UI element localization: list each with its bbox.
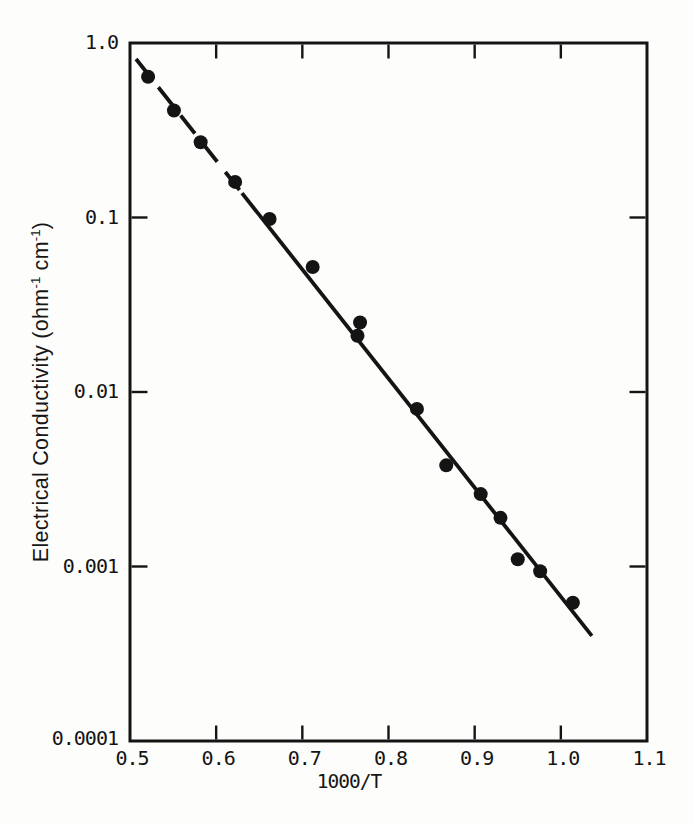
x-tick-label: 0.6 [202,746,235,770]
data-point [353,316,367,330]
data-point [350,329,364,343]
data-point [263,212,277,226]
y-axis-title-sup1: -1 [28,277,43,289]
data-point [167,104,181,118]
x-tick-label: 0.9 [460,746,493,770]
conductivity-vs-inverse-temperature-chart: 1.00.10.010.0010.00010.50.60.70.80.91.01… [0,0,694,825]
data-point [533,564,547,578]
x-tick-label: 1.1 [632,746,665,770]
data-point [194,135,208,149]
x-tick-label: 0.5 [115,746,148,770]
data-point [566,596,580,610]
data-point [474,487,488,501]
x-axis-title: 1000/T [317,770,381,793]
arrhenius-conductivity-figure: 1.00.10.010.0010.00010.50.60.70.80.91.01… [0,0,694,825]
y-tick-label: 0.01 [74,379,118,403]
data-point [511,552,525,566]
y-axis-title-text2: cm [29,241,53,277]
y-tick-label: 1.0 [85,30,118,54]
y-axis-title: Electrical Conductivity (ohm-1 cm-1) [28,222,54,562]
y-axis-title-sup2: -1 [28,229,43,241]
data-point [141,70,155,84]
y-tick-label: 0.001 [63,554,118,578]
y-tick-label: 0.0001 [52,726,118,750]
x-tick-label: 1.0 [546,746,579,770]
data-point [439,458,453,472]
x-tick-label: 0.8 [374,746,407,770]
data-point [494,511,508,525]
y-axis-title-text3: ) [29,222,53,229]
data-point [228,175,242,189]
data-point [306,260,320,274]
y-axis-title-text: Electrical Conductivity (ohm [29,289,53,563]
data-point [410,402,424,416]
y-tick-label: 0.1 [85,205,118,229]
x-tick-label: 0.7 [288,746,321,770]
